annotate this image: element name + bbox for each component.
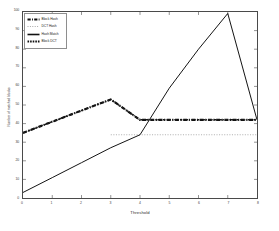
- ytick-label: 30: [15, 141, 19, 144]
- series-line-block-hash: [23, 99, 257, 132]
- legend-label: Hash Match: [42, 33, 59, 36]
- tick-marks-bottom: [52, 195, 228, 198]
- xtick-label: 2: [80, 202, 82, 205]
- legend-item-block-dct[interactable]: Block DCT: [27, 38, 64, 46]
- legend-swatch-dash-dot-thick-icon: [27, 16, 40, 23]
- x-axis-title: Threshold: [22, 210, 258, 215]
- xtick-label: 7: [228, 202, 230, 205]
- ytick-label: 70: [15, 66, 19, 69]
- ytick-label: 80: [15, 47, 19, 50]
- ytick-label: 0: [17, 197, 19, 200]
- xtick-label: 8: [257, 202, 259, 205]
- figure-canvas: 0 10 20 30 40 50 60 70 80 90 100 0 1 2 3…: [0, 0, 279, 231]
- xtick-label: 0: [21, 202, 23, 205]
- ytick-label: 20: [15, 160, 19, 163]
- chart-legend: Block Hash DCT Hash Hash Match: [24, 13, 67, 49]
- xtick-label: 3: [110, 202, 112, 205]
- legend-item-hash-match[interactable]: Hash Match: [27, 31, 64, 39]
- series-line-block-dct: [23, 99, 257, 132]
- tick-marks-right: [254, 31, 257, 180]
- xtick-label: 5: [169, 202, 171, 205]
- xtick-label: 4: [139, 202, 141, 205]
- legend-swatch-solid-icon: [27, 31, 40, 38]
- legend-item-dct-hash[interactable]: DCT Hash: [27, 23, 64, 31]
- legend-label: DCT Hash: [42, 25, 57, 28]
- ytick-label: 100: [14, 9, 19, 12]
- legend-swatch-dotted-light-icon: [27, 23, 40, 30]
- tick-marks-top: [52, 12, 228, 15]
- ytick-label: 60: [15, 84, 19, 87]
- xtick-label: 1: [51, 202, 53, 205]
- y-axis-title: Number of matched blocks: [7, 77, 11, 137]
- ytick-label: 40: [15, 122, 19, 125]
- legend-label: Block Hash: [42, 18, 58, 21]
- legend-label: Block DCT: [42, 40, 57, 43]
- xtick-label: 6: [198, 202, 200, 205]
- tick-marks-left: [23, 31, 26, 180]
- ytick-label: 90: [15, 28, 19, 31]
- ytick-label: 50: [15, 103, 19, 106]
- ytick-label: 10: [15, 178, 19, 181]
- legend-swatch-dash-dot-icon: [27, 38, 40, 45]
- legend-item-block-hash[interactable]: Block Hash: [27, 16, 64, 24]
